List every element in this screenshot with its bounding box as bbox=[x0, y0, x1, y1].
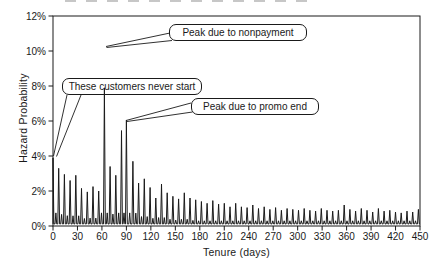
y-tick-label: 12% bbox=[26, 11, 46, 22]
x-tick-label: 60 bbox=[96, 231, 108, 242]
x-tick-label: 360 bbox=[338, 231, 355, 242]
y-tick-label: 2% bbox=[32, 186, 47, 197]
cropped-text-artifact bbox=[65, 0, 317, 2]
hazard-probability-figure: 0306090120150180210240270300330360390420… bbox=[0, 0, 443, 274]
x-tick-label: 180 bbox=[191, 231, 208, 242]
y-tick-label: 10% bbox=[26, 46, 46, 57]
x-tick-label: 300 bbox=[289, 231, 306, 242]
annotation-peak-nonpayment: Peak due to nonpayment bbox=[169, 24, 307, 41]
y-axis-title: Hazard Probability bbox=[17, 58, 29, 178]
x-tick-label: 30 bbox=[72, 231, 84, 242]
annotation-never-start: These customers never start bbox=[62, 78, 202, 95]
y-tick-label: 4% bbox=[32, 151, 47, 162]
x-tick-label: 0 bbox=[50, 231, 56, 242]
x-tick-label: 450 bbox=[412, 231, 429, 242]
callout-tail bbox=[126, 103, 191, 121]
callout-tail bbox=[127, 112, 193, 122]
y-tick-label: 6% bbox=[32, 116, 47, 127]
x-tick-label: 240 bbox=[240, 231, 257, 242]
y-tick-label: 8% bbox=[32, 81, 47, 92]
x-tick-label: 330 bbox=[314, 231, 331, 242]
x-tick-label: 150 bbox=[167, 231, 184, 242]
y-tick-label: 0% bbox=[32, 221, 47, 232]
x-tick-label: 390 bbox=[363, 231, 380, 242]
x-tick-label: 270 bbox=[265, 231, 282, 242]
chart-canvas: 0306090120150180210240270300330360390420… bbox=[0, 0, 443, 274]
x-tick-label: 120 bbox=[143, 231, 160, 242]
x-tick-label: 90 bbox=[121, 231, 133, 242]
x-tick-label: 210 bbox=[216, 231, 233, 242]
annotation-peak-promo-end: Peak due to promo end bbox=[191, 98, 319, 115]
x-axis-title: Tenure (days) bbox=[53, 246, 420, 258]
x-tick-label: 420 bbox=[387, 231, 404, 242]
